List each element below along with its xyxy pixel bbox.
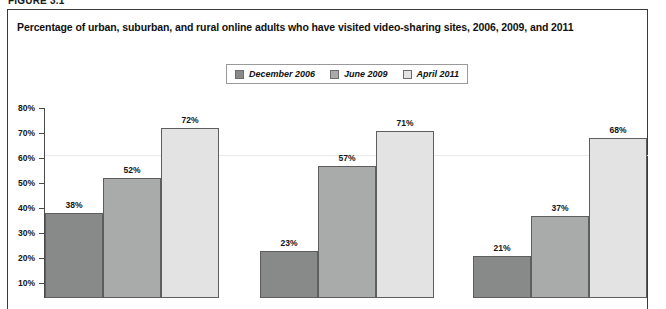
legend-label-june-2009: June 2009 — [344, 69, 388, 79]
legend-item-april-2011[interactable]: April 2011 — [403, 69, 459, 79]
figure-number-label: FIGURE 3.1 — [8, 0, 64, 6]
legend-swatch-april-2011 — [403, 70, 412, 79]
legend-label-april-2011: April 2011 — [417, 69, 459, 79]
figure-panel — [7, 9, 648, 309]
legend-item-december-2006[interactable]: December 2006 — [235, 69, 315, 79]
legend-label-december-2006: December 2006 — [249, 69, 315, 79]
legend-swatch-june-2009 — [330, 70, 339, 79]
chart-legend: December 2006 June 2009 April 2011 — [226, 64, 468, 84]
chart-title: Percentage of urban, suburban, and rural… — [17, 21, 627, 33]
legend-swatch-december-2006 — [235, 70, 244, 79]
legend-item-june-2009[interactable]: June 2009 — [330, 69, 388, 79]
